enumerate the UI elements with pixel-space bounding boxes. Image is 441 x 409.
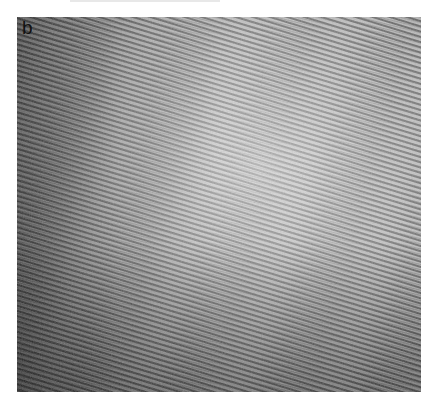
fringe-pattern	[17, 17, 421, 392]
panel-label: b	[22, 18, 33, 37]
micrograph-image: b	[17, 17, 421, 392]
cropped-caption-remnant	[70, 0, 220, 4]
